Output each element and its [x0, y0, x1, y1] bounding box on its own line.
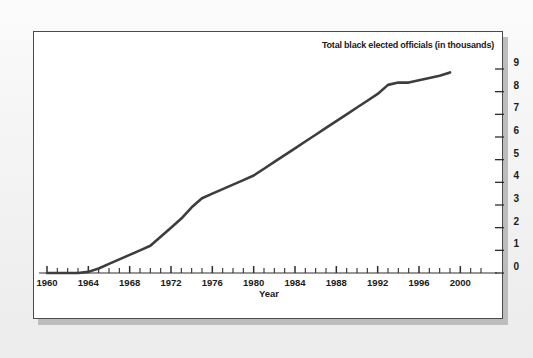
- y-axis-tick-label: 0: [507, 261, 519, 272]
- data-series-line: [47, 72, 450, 273]
- x-axis-title: Year: [34, 288, 504, 299]
- x-axis-tick-label: 1960: [27, 277, 67, 288]
- x-axis-tick-label: 1968: [110, 277, 150, 288]
- y-axis-tick-label: 1: [507, 238, 519, 249]
- x-axis-tick-label: 2000: [440, 277, 480, 288]
- y-axis-tick-label: 7: [507, 102, 519, 113]
- figure-frame: Total black elected officials (in thousa…: [33, 31, 503, 319]
- x-axis-tick-label: 1964: [68, 277, 108, 288]
- y-axis-tick-label: 4: [507, 170, 519, 181]
- x-axis-tick-label: 1984: [275, 277, 315, 288]
- x-axis-tick-label: 1972: [151, 277, 191, 288]
- x-axis-tick-label: 1980: [234, 277, 274, 288]
- x-axis-tick-label: 1976: [192, 277, 232, 288]
- y-axis-tick-label: 2: [507, 216, 519, 227]
- y-axis-tick-label: 3: [507, 193, 519, 204]
- y-axis-ticks: [495, 69, 504, 273]
- x-axis-tick-label: 1992: [358, 277, 398, 288]
- x-axis-minor-ticks: [47, 266, 481, 273]
- chart-page: Total black elected officials (in thousa…: [0, 0, 533, 358]
- y-axis-tick-label: 5: [507, 148, 519, 159]
- y-axis-tick-label: 6: [507, 125, 519, 136]
- plot-area: Total black elected officials (in thousa…: [34, 32, 504, 320]
- x-axis-tick-label: 1996: [399, 277, 439, 288]
- y-axis-tick-label: 8: [507, 80, 519, 91]
- y-axis-tick-label: 9: [507, 57, 519, 68]
- x-axis-tick-label: 1988: [316, 277, 356, 288]
